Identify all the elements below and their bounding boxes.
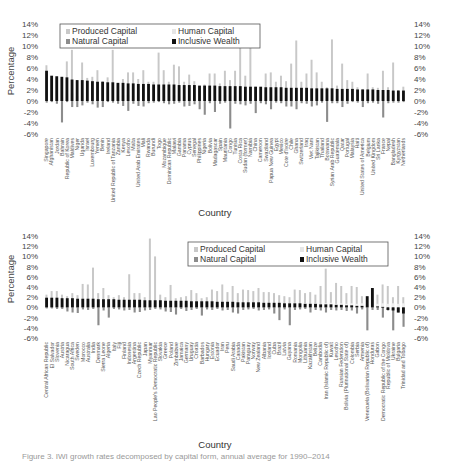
- bar-group: [56, 291, 59, 309]
- bar-group: [149, 239, 152, 310]
- y-tick-right: 4%: [414, 75, 426, 84]
- bar-inclusive-wealth: [341, 89, 344, 101]
- bar-inclusive-wealth: [304, 304, 307, 308]
- bar-natural-capital: [113, 307, 115, 309]
- bar-inclusive-wealth: [237, 302, 240, 307]
- bar-inclusive-wealth: [336, 89, 339, 101]
- bar-natural-capital: [46, 307, 48, 308]
- bar-group: [288, 297, 291, 325]
- bar-group: [91, 77, 94, 105]
- bar-natural-capital: [250, 101, 252, 104]
- bar-inclusive-wealth: [326, 88, 329, 101]
- bar-natural-capital: [371, 307, 373, 310]
- y-axis-label: Percentage: [5, 255, 16, 304]
- bar-natural-capital: [134, 307, 136, 312]
- bar-group: [117, 83, 120, 104]
- bar-group: [213, 74, 216, 113]
- legend-human-capital-swatch-icon: [172, 29, 176, 34]
- bar-inclusive-wealth: [224, 86, 227, 101]
- bar-group: [229, 80, 232, 128]
- bar-inclusive-wealth: [371, 288, 374, 307]
- bar-inclusive-wealth: [198, 86, 201, 101]
- bar-natural-capital: [204, 101, 206, 115]
- bar-inclusive-wealth: [50, 76, 53, 101]
- bar-inclusive-wealth: [142, 84, 145, 101]
- bar-human-capital: [402, 303, 405, 307]
- bar-natural-capital: [289, 307, 291, 325]
- bar-natural-capital: [117, 101, 119, 104]
- bar-natural-capital: [149, 307, 151, 310]
- bar-inclusive-wealth: [123, 300, 126, 308]
- x-category-label: Trinidad and Tobago: [400, 342, 406, 389]
- bar-group: [392, 63, 395, 103]
- bar-inclusive-wealth: [193, 85, 196, 101]
- bar-natural-capital: [97, 307, 99, 325]
- bar-natural-capital: [306, 101, 308, 104]
- bar-natural-capital: [330, 307, 332, 310]
- y-tick-right: 8%: [414, 263, 426, 272]
- bar-group: [45, 295, 48, 309]
- bar-inclusive-wealth: [319, 304, 322, 307]
- bar-group: [106, 77, 109, 102]
- y-tick-left: -4%: [24, 119, 38, 128]
- bar-inclusive-wealth: [81, 299, 84, 308]
- legend-produced-capital-swatch-icon: [66, 29, 70, 34]
- bar-natural-capital: [139, 307, 141, 312]
- y-tick-left: 6%: [26, 64, 38, 73]
- bar-group: [60, 77, 63, 123]
- bar-natural-capital: [242, 307, 244, 310]
- bar-inclusive-wealth: [81, 80, 84, 101]
- bar-natural-capital: [92, 307, 94, 309]
- bar-group: [224, 71, 227, 103]
- bar-group: [249, 41, 252, 104]
- y-tick-left: -4%: [24, 324, 38, 333]
- bar-inclusive-wealth: [97, 299, 100, 307]
- bar-group: [118, 295, 121, 309]
- bar-group: [252, 291, 255, 309]
- bar-inclusive-wealth: [300, 88, 303, 101]
- y-tick-left: 10%: [22, 252, 38, 261]
- y-tick-left: 12%: [22, 242, 38, 251]
- bar-natural-capital: [108, 307, 110, 317]
- bar-natural-capital: [331, 101, 333, 103]
- bar-natural-capital: [128, 307, 130, 310]
- bar-inclusive-wealth: [133, 300, 136, 308]
- bar-group: [293, 290, 296, 310]
- y-tick-left: 2%: [26, 86, 38, 95]
- y-tick-left: 14%: [22, 20, 38, 29]
- bar-human-capital: [386, 304, 389, 308]
- bar-group: [340, 286, 343, 310]
- bar-group: [331, 39, 334, 103]
- legend-inclusive-wealth: Inclusive Wealth: [172, 36, 240, 46]
- legend-inclusive-wealth-swatch-icon: [172, 39, 176, 44]
- bar-inclusive-wealth: [290, 88, 293, 101]
- bar-inclusive-wealth: [275, 87, 278, 101]
- bar-group: [122, 79, 125, 106]
- bar-inclusive-wealth: [335, 305, 338, 308]
- bar-group: [221, 284, 224, 310]
- bar-group: [81, 284, 84, 310]
- bar-group: [157, 53, 160, 103]
- bar-inclusive-wealth: [200, 301, 203, 307]
- bar-produced-capital: [154, 256, 156, 307]
- bar-natural-capital: [201, 307, 203, 315]
- legend-natural-capital-label: Natural Capital: [200, 254, 256, 264]
- bar-natural-capital: [194, 101, 196, 104]
- bar-group: [50, 76, 53, 102]
- bar-group: [382, 71, 385, 118]
- bar-inclusive-wealth: [397, 91, 400, 101]
- bar-group: [366, 74, 369, 104]
- bar-inclusive-wealth: [107, 299, 110, 307]
- bar-inclusive-wealth: [132, 83, 135, 101]
- bar-natural-capital: [227, 307, 229, 310]
- bar-group: [66, 61, 69, 102]
- bar-natural-capital: [144, 307, 146, 310]
- bar-group: [128, 274, 131, 310]
- bar-inclusive-wealth: [259, 87, 262, 101]
- bar-natural-capital: [206, 307, 208, 309]
- bar-inclusive-wealth: [45, 298, 48, 308]
- bar-group: [381, 284, 384, 317]
- bar-group: [234, 71, 237, 104]
- bar-inclusive-wealth: [244, 87, 247, 101]
- bar-group: [295, 41, 298, 110]
